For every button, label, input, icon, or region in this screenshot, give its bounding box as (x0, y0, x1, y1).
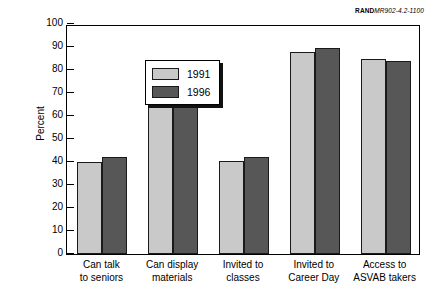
bar-1996 (173, 92, 198, 254)
x-category-label: Access toASVAB takers (325, 259, 445, 284)
rand-wordmark: RAND (355, 7, 374, 14)
bar-group (218, 157, 270, 254)
y-tick-40: 40 (67, 161, 74, 162)
legend-label-1996: 1996 (187, 86, 210, 98)
bar-1996 (244, 157, 269, 254)
bar-group (360, 59, 412, 255)
y-tick-90: 90 (67, 46, 74, 47)
bar-1996 (315, 48, 340, 254)
legend-label-1991: 1991 (187, 68, 210, 80)
bar-1991 (290, 52, 315, 254)
y-tick-60: 60 (67, 115, 74, 116)
x-category-line: ASVAB takers (325, 272, 445, 285)
legend-item-1996: 1996 (152, 84, 210, 99)
y-tick-label-70: 70 (52, 86, 63, 97)
bar-1991 (361, 59, 386, 255)
y-tick-label-100: 100 (46, 17, 63, 28)
y-tick-30: 30 (67, 184, 74, 185)
legend-swatch-1991 (152, 68, 179, 80)
legend-item-1991: 1991 (152, 66, 210, 81)
y-tick-label-0: 0 (57, 247, 63, 258)
y-tick-label-90: 90 (52, 40, 63, 51)
bar-1991 (148, 96, 173, 254)
rand-figure-id: RANDMR902-4.2-1100 (355, 7, 424, 14)
plot-area: 0102030405060708090100 1991 1996 (66, 25, 420, 255)
chart-legend: 1991 1996 (145, 60, 220, 105)
y-tick-10: 10 (67, 230, 74, 231)
x-category-line: Access to (325, 259, 445, 272)
bar-1991 (77, 162, 102, 254)
chart-figure: RANDMR902-4.2-1100 Percent 0102030405060… (0, 0, 446, 296)
y-tick-label-40: 40 (52, 155, 63, 166)
bar-1991 (219, 161, 244, 254)
y-tick-20: 20 (67, 207, 74, 208)
y-tick-70: 70 (67, 92, 74, 93)
y-tick-label-30: 30 (52, 178, 63, 189)
bar-group (76, 157, 128, 254)
y-tick-label-60: 60 (52, 109, 63, 120)
y-tick-100: 100 (67, 23, 74, 24)
legend-swatch-1996 (152, 86, 179, 98)
y-tick-label-80: 80 (52, 63, 63, 74)
bar-1996 (386, 61, 411, 254)
bar-group (289, 48, 341, 254)
y-tick-label-20: 20 (52, 201, 63, 212)
bar-group (147, 92, 199, 254)
bar-1996 (102, 157, 127, 254)
rand-figure-number: MR902-4.2-1100 (374, 7, 424, 14)
y-tick-50: 50 (67, 138, 74, 139)
y-tick-label-10: 10 (52, 224, 63, 235)
y-tick-0: 0 (67, 253, 74, 254)
y-tick-80: 80 (67, 69, 74, 70)
y-axis-label: Percent (35, 94, 46, 154)
y-tick-label-50: 50 (52, 132, 63, 143)
